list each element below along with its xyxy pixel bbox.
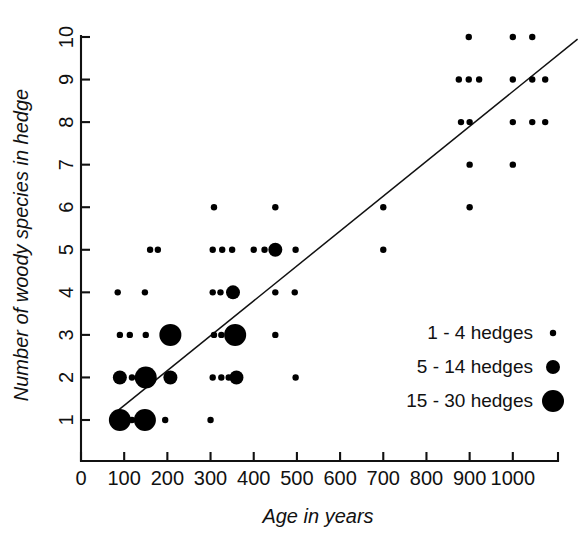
data-point bbox=[456, 76, 462, 82]
data-point bbox=[292, 247, 298, 253]
data-point bbox=[135, 366, 157, 388]
data-point bbox=[466, 76, 472, 82]
data-point bbox=[134, 409, 156, 431]
data-point bbox=[127, 332, 133, 338]
data-point bbox=[542, 119, 548, 125]
data-point bbox=[529, 119, 535, 125]
x-axis-ticks bbox=[81, 452, 558, 461]
data-point bbox=[229, 247, 235, 253]
x-tick-label: 900 bbox=[453, 467, 486, 489]
chart-page: 01002003004005006007008009001000 1234567… bbox=[0, 0, 587, 553]
data-point bbox=[466, 204, 472, 210]
data-point bbox=[143, 332, 149, 338]
data-point bbox=[466, 34, 472, 40]
data-point bbox=[542, 76, 548, 82]
data-point bbox=[147, 247, 153, 253]
x-axis-tick-labels: 01002003004005006007008009001000 bbox=[75, 467, 535, 489]
data-point bbox=[129, 374, 135, 380]
y-axis-ticks bbox=[81, 37, 90, 420]
legend-marker-small bbox=[550, 330, 556, 336]
legend-marker-medium bbox=[546, 360, 560, 374]
y-tick-label: 7 bbox=[55, 159, 77, 170]
y-tick-label: 10 bbox=[55, 26, 77, 48]
data-point bbox=[163, 370, 177, 384]
data-point bbox=[476, 76, 482, 82]
legend: 1 - 4 hedges5 - 14 hedges15 - 30 hedges bbox=[406, 322, 564, 412]
data-point bbox=[210, 247, 216, 253]
x-tick-label: 0 bbox=[75, 467, 86, 489]
x-tick-label: 200 bbox=[151, 467, 184, 489]
data-point bbox=[207, 417, 213, 423]
data-point bbox=[142, 289, 148, 295]
data-point bbox=[224, 324, 246, 346]
data-point bbox=[292, 374, 298, 380]
data-point bbox=[219, 247, 225, 253]
data-point bbox=[529, 34, 535, 40]
data-point bbox=[210, 289, 216, 295]
data-point bbox=[251, 247, 257, 253]
x-tick-label: 500 bbox=[280, 467, 313, 489]
data-point bbox=[380, 204, 386, 210]
legend-label: 5 - 14 hedges bbox=[417, 356, 533, 377]
y-tick-label: 3 bbox=[55, 329, 77, 340]
y-tick-label: 2 bbox=[55, 372, 77, 383]
data-point bbox=[217, 289, 223, 295]
x-tick-label: 1000 bbox=[491, 467, 536, 489]
data-point bbox=[510, 119, 516, 125]
data-point bbox=[529, 76, 535, 82]
data-point bbox=[218, 374, 224, 380]
data-point bbox=[292, 289, 298, 295]
y-axis-title: Number of woody species in hedge bbox=[10, 89, 32, 401]
y-tick-label: 8 bbox=[55, 117, 77, 128]
data-point bbox=[229, 370, 243, 384]
y-tick-label: 6 bbox=[55, 202, 77, 213]
data-point bbox=[380, 247, 386, 253]
data-point bbox=[466, 161, 472, 167]
data-point bbox=[211, 204, 217, 210]
data-point bbox=[510, 76, 516, 82]
x-tick-label: 600 bbox=[323, 467, 356, 489]
x-tick-label: 700 bbox=[367, 467, 400, 489]
data-point bbox=[261, 247, 267, 253]
scatter-plot: 01002003004005006007008009001000 1234567… bbox=[0, 0, 587, 553]
legend-label: 1 - 4 hedges bbox=[427, 322, 533, 343]
y-tick-label: 9 bbox=[55, 74, 77, 85]
y-tick-label: 5 bbox=[55, 244, 77, 255]
data-point bbox=[268, 243, 282, 257]
data-point bbox=[115, 289, 121, 295]
y-tick-label: 1 bbox=[55, 414, 77, 425]
legend-marker-large bbox=[542, 390, 564, 412]
x-tick-label: 400 bbox=[237, 467, 270, 489]
x-tick-label: 100 bbox=[107, 467, 140, 489]
data-point bbox=[113, 370, 127, 384]
data-point bbox=[272, 332, 278, 338]
data-point bbox=[272, 289, 278, 295]
data-point bbox=[117, 332, 123, 338]
y-axis-tick-labels: 12345678910 bbox=[55, 26, 77, 426]
data-point bbox=[272, 204, 278, 210]
x-tick-label: 800 bbox=[410, 467, 443, 489]
data-point bbox=[458, 119, 464, 125]
x-tick-label: 300 bbox=[194, 467, 227, 489]
data-point bbox=[162, 417, 168, 423]
x-axis-title: Age in years bbox=[261, 505, 373, 527]
data-point bbox=[109, 409, 131, 431]
data-point bbox=[218, 332, 224, 338]
data-point bbox=[466, 119, 472, 125]
data-point bbox=[211, 332, 217, 338]
data-point bbox=[510, 161, 516, 167]
data-point bbox=[226, 285, 240, 299]
legend-label: 15 - 30 hedges bbox=[406, 390, 533, 411]
data-point bbox=[510, 34, 516, 40]
y-tick-label: 4 bbox=[55, 287, 77, 298]
data-point bbox=[159, 324, 181, 346]
data-point bbox=[155, 247, 161, 253]
data-point bbox=[210, 374, 216, 380]
